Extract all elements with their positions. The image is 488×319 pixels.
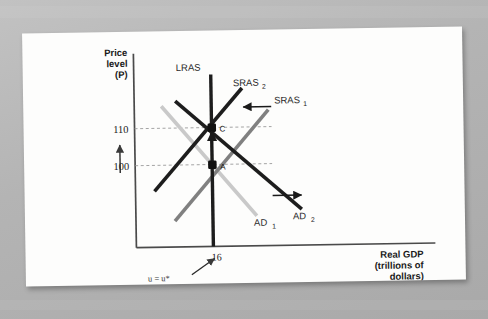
y-axis-title-line2: level <box>106 58 127 69</box>
x-axis-title: Real GDP (trillions of dollars) <box>374 248 424 282</box>
ad-as-diagram: Price level (P) Real GDP (trillions of d… <box>22 27 466 287</box>
point-a-marker <box>208 160 217 169</box>
scan-bed-band <box>0 300 488 310</box>
curve-label-ad2: AD 2 <box>293 210 315 223</box>
y-tick-100: 100 <box>113 161 129 172</box>
curve-label-ad2-sub: 2 <box>311 216 315 223</box>
y-axis-title-line1: Price <box>104 47 127 58</box>
curve-label-lras: LRAS <box>176 62 201 73</box>
point-label-a: A <box>220 162 226 171</box>
x-axis-title-line3: dollars) <box>389 270 423 282</box>
curve-label-sras1-text: SRAS <box>274 94 300 105</box>
curve-sras2 <box>153 88 244 191</box>
y-tick-110: 110 <box>113 124 129 135</box>
y-axis-title-line3: (P) <box>115 69 128 80</box>
x-axis-title-line2: (trillions of <box>375 259 425 271</box>
curve-label-sras2-sub: 2 <box>262 83 266 90</box>
x-axis <box>136 243 435 248</box>
curve-label-ad1: AD 1 <box>254 217 276 230</box>
point-label-c: C <box>219 124 225 133</box>
point-c-marker <box>207 123 216 132</box>
curve-label-sras1-sub: 1 <box>303 100 307 107</box>
curve-label-ad1-text: AD <box>254 217 268 228</box>
curve-label-sras1: SRAS 1 <box>274 94 307 108</box>
x-tick-16: 16 <box>211 251 221 262</box>
annotation-u-equals-u-star: u = u* <box>148 273 170 283</box>
curve-label-ad2-text: AD <box>293 210 307 221</box>
y-axis <box>133 54 136 248</box>
scan-bed-band <box>0 6 488 18</box>
y-axis-title: Price level (P) <box>104 47 128 80</box>
curve-label-ad1-sub: 1 <box>272 223 276 230</box>
x-axis-title-line1: Real GDP <box>380 248 424 260</box>
curve-label-sras2: SRAS 2 <box>233 77 266 91</box>
scanned-page-background: Price level (P) Real GDP (trillions of d… <box>0 0 488 319</box>
curve-label-sras2-text: SRAS <box>233 77 259 88</box>
figure-page: Price level (P) Real GDP (trillions of d… <box>22 27 466 287</box>
